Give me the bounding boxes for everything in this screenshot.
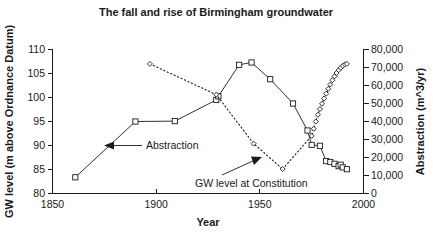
- right-tick-20000: 20,000: [371, 151, 403, 163]
- abstraction-annotation-label: Abstraction: [146, 139, 199, 151]
- chart-title: The fall and rise of Birmingham groundwa…: [99, 6, 334, 18]
- data-point-square: [237, 62, 242, 67]
- right-axis-title: Abstraction (m^3/yr): [414, 68, 426, 176]
- left-axis-title: GW level (m above Ordnance Datum): [3, 25, 15, 218]
- data-point-square: [172, 119, 177, 124]
- data-point-diamond: [311, 126, 316, 131]
- data-point-diamond: [313, 119, 318, 124]
- right-axis-ticks: [364, 50, 369, 194]
- gw-level-line-recovery: [283, 64, 347, 169]
- abstraction-markers: [73, 60, 350, 180]
- gw-level-annotation-label: GW level at Constitution: [195, 177, 308, 189]
- x-axis-ticks: [53, 189, 364, 194]
- left-tick-90: 90: [33, 139, 45, 151]
- right-tick-50000: 50,000: [371, 97, 403, 109]
- x-tick-2000: 2000: [352, 198, 376, 210]
- annotation-abstraction: Abstraction: [104, 139, 199, 151]
- gw-level-line-early: [150, 64, 283, 169]
- chart-figure: The fall and rise of Birmingham groundwa…: [0, 0, 433, 239]
- data-point-square: [305, 128, 310, 133]
- left-tick-100: 100: [27, 91, 45, 103]
- data-point-diamond: [322, 96, 327, 101]
- gw-level-arrow-line: [222, 161, 254, 176]
- data-point-diamond: [320, 101, 325, 106]
- left-tick-85: 85: [33, 163, 45, 175]
- x-axis: 1850 1900 1950 2000 Year: [41, 189, 376, 229]
- left-axis-ticks: [48, 50, 53, 194]
- data-point-square: [317, 143, 322, 148]
- right-tick-40000: 40,000: [371, 115, 403, 127]
- series-gw-level: [147, 61, 349, 171]
- left-tick-95: 95: [33, 115, 45, 127]
- data-point-diamond: [315, 112, 320, 117]
- right-tick-70000: 70,000: [371, 61, 403, 73]
- data-point-square: [309, 142, 314, 147]
- left-tick-110: 110: [28, 43, 45, 55]
- data-point-diamond: [317, 107, 322, 112]
- data-point-diamond: [147, 61, 152, 66]
- data-point-square: [268, 77, 273, 82]
- data-point-square: [133, 119, 138, 124]
- abstraction-arrow-head: [104, 142, 114, 150]
- right-tick-30000: 30,000: [371, 133, 403, 145]
- data-point-square: [73, 175, 78, 180]
- annotation-gw-level: GW level at Constitution: [195, 157, 308, 190]
- data-point-square: [249, 60, 254, 65]
- gw-level-arrow-head: [251, 157, 262, 166]
- x-tick-1950: 1950: [248, 198, 272, 210]
- groundwater-chart: The fall and rise of Birmingham groundwa…: [0, 0, 433, 239]
- right-tick-80000: 80,000: [371, 43, 403, 55]
- left-y-axis: 110 105 100 95 90 85 80 GW level (m abov…: [3, 25, 53, 218]
- data-point-square: [290, 101, 295, 106]
- left-tick-105: 105: [27, 67, 45, 79]
- x-tick-1850: 1850: [41, 198, 65, 210]
- abstraction-line: [75, 62, 347, 177]
- right-y-axis: 80,000 70,000 60,000 50,000 40,000 30,00…: [364, 43, 427, 199]
- data-point-square: [344, 167, 349, 172]
- x-tick-1900: 1900: [145, 198, 169, 210]
- series-abstraction: [73, 60, 350, 180]
- gw-level-markers: [147, 61, 349, 171]
- right-tick-60000: 60,000: [371, 79, 403, 91]
- right-tick-10000: 10,000: [371, 169, 403, 181]
- x-axis-title: Year: [196, 216, 220, 228]
- data-point-diamond: [324, 91, 329, 96]
